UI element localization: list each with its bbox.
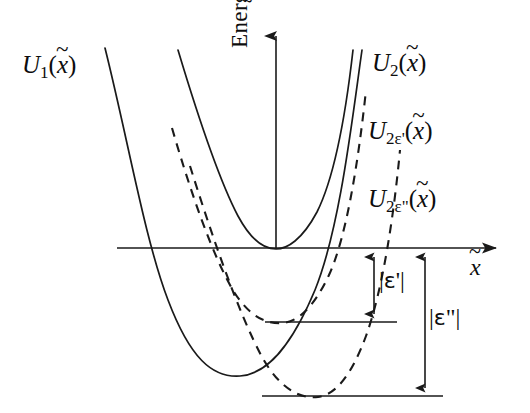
curve-label-u2e1-arg: ~x — [413, 118, 424, 143]
curve-label-u2-close-paren: ) — [418, 49, 426, 76]
curve-label-u2e2-arg: ~x — [417, 186, 428, 211]
measure-label-eps2-prime: " — [446, 304, 456, 330]
measure-label-epsilon-prime: |ε'| — [379, 268, 405, 292]
tilde-accent-icon: ~ — [416, 172, 428, 195]
x-axis-label-symbol: ~x — [470, 255, 481, 279]
curve-label-u2e1-close-paren: ) — [424, 117, 432, 144]
tilde-accent-icon: ~ — [406, 36, 418, 59]
tilde-accent-icon: ~ — [56, 38, 68, 61]
curve-label-u2: U2(~x) — [372, 50, 426, 79]
measure-label-eps1-symbol: ε — [384, 268, 396, 293]
y-axis-label: Energy — [228, 0, 251, 48]
curve-u2 — [178, 50, 353, 249]
tilde-accent-icon: ~ — [469, 241, 481, 263]
measure-label-eps2-bar-close: | — [456, 304, 461, 330]
measure-label-eps2-symbol: ε — [434, 305, 446, 330]
measure-label-epsilon-doubleprime: |ε"| — [429, 305, 460, 329]
curve-label-u1-arg: ~x — [57, 52, 68, 77]
tilde-accent-icon: ~ — [412, 104, 424, 127]
curve-label-u1-close-paren: ) — [68, 51, 76, 78]
curve-label-u2e1-base: U — [368, 117, 386, 144]
curve-label-u2-subscript: 2 — [390, 61, 399, 80]
measure-label-eps1-bar-close: | — [400, 267, 405, 293]
curve-label-u2e2-subscript: 2ε" — [386, 197, 409, 216]
diagram-canvas — [0, 0, 530, 413]
curve-label-u2e2-base: U — [368, 185, 386, 212]
curve-label-u2-base: U — [372, 49, 390, 76]
curve-label-u2-arg: ~x — [407, 50, 418, 75]
curve-label-u1-base: U — [22, 51, 40, 78]
energy-diagram-figure: U1(~x) U2(~x) U2ε'(~x) U2ε"(~x) Energy ~… — [0, 0, 530, 413]
curve-label-u1: U1(~x) — [22, 52, 76, 81]
curve-label-u2e2-close-paren: ) — [428, 185, 436, 212]
curve-u1 — [105, 48, 362, 376]
curve-label-u2-epsilon-prime: U2ε'(~x) — [368, 118, 433, 147]
curve-label-u2e1-subscript: 2ε' — [386, 129, 405, 148]
curve-label-u2-epsilon-doubleprime: U2ε"(~x) — [368, 186, 436, 215]
x-axis-label: ~x — [470, 255, 481, 279]
curve-label-u1-subscript: 1 — [40, 63, 49, 82]
